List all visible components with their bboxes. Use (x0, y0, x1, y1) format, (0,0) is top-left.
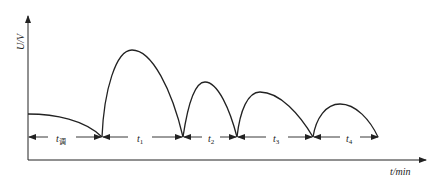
curve-2 (183, 82, 237, 137)
interval-label-t3: t3 (273, 133, 280, 146)
curve-initial (28, 114, 102, 137)
curve-3 (237, 92, 313, 137)
x-axis-label: t/min (390, 166, 411, 177)
diagram-canvas: U/V t/min t调 t1 t2 t3 t4 (0, 0, 437, 184)
interval-label-t-tiao: t调 (56, 133, 66, 146)
voltage-curves (28, 50, 378, 137)
interval-label-t2: t2 (208, 133, 215, 146)
interval-label-t4: t4 (346, 133, 353, 146)
voltage-time-diagram: U/V t/min t调 t1 t2 t3 t4 (0, 0, 437, 184)
y-axis-label: U/V (15, 32, 26, 50)
curve-1 (102, 50, 183, 137)
interval-label-t1: t1 (137, 133, 144, 146)
